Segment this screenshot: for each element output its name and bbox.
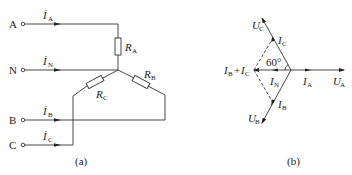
svg-text:R: R [143, 68, 151, 80]
svg-text:B: B [48, 111, 53, 119]
svg-text:A: A [132, 47, 137, 55]
label-ub: U B [248, 112, 260, 126]
phasor-ub [262, 70, 291, 123]
arrow-ic-icon [54, 143, 61, 146]
svg-text:R: R [124, 41, 132, 53]
svg-text:A: A [48, 15, 53, 23]
label-uc: U C [252, 19, 264, 33]
label-in: I N [269, 75, 279, 89]
svg-text:C: C [48, 136, 53, 144]
label-ib: I B [277, 98, 287, 112]
arrow-ib-icon [54, 118, 61, 121]
current-label-ic: İ C [42, 130, 53, 144]
label-b: B [9, 114, 16, 126]
svg-text:C: C [259, 25, 264, 33]
svg-text:B: B [282, 104, 287, 112]
current-label-ib: İ B [42, 105, 53, 119]
svg-text:B: B [228, 70, 233, 78]
resistor-label-rc: R C [95, 88, 108, 102]
circuit-a [21, 22, 165, 147]
marker-ia-icon [305, 69, 311, 72]
phasor-diagram-b [254, 18, 344, 123]
svg-text:C: C [282, 40, 287, 48]
arrow-in-icon [54, 68, 61, 71]
svg-text:C: C [103, 94, 108, 102]
label-ia: I A [302, 75, 312, 89]
svg-text:A: A [340, 81, 345, 89]
svg-text:N: N [274, 81, 279, 89]
caption-a: (a) [75, 155, 88, 168]
svg-text:R: R [95, 88, 103, 100]
terminal-c [21, 143, 25, 147]
label-ic: I C [277, 34, 287, 48]
terminal-b [21, 118, 25, 122]
label-ib-plus-ic: I B + I C [223, 64, 250, 78]
svg-text:C: C [245, 70, 250, 78]
current-label-in: İ N [42, 55, 53, 69]
label-a: A [9, 18, 17, 30]
resistor-rc [86, 75, 104, 88]
svg-text:A: A [307, 81, 312, 89]
marker-ic-icon [271, 37, 275, 43]
angle-arc [285, 65, 288, 70]
svg-text:+: + [234, 64, 240, 76]
current-label-ia: İ A [42, 9, 53, 23]
current-arrows-a [54, 22, 61, 146]
resistor-label-rb: R B [143, 68, 156, 82]
marker-in-icon [272, 69, 278, 72]
svg-text:B: B [255, 118, 260, 126]
caption-b: (b) [287, 155, 300, 168]
resistor-ra [115, 38, 121, 55]
label-n: N [9, 64, 17, 76]
svg-text:B: B [151, 74, 156, 82]
label-ua: U A [333, 75, 345, 89]
terminal-n [21, 68, 25, 72]
terminal-a [21, 22, 25, 26]
angle-label: 60° [266, 56, 281, 68]
svg-text:N: N [48, 61, 53, 69]
arrow-ia-icon [54, 22, 61, 25]
circuit-figure: A N B C İ A İ N İ B İ C R A R B R C (a) [0, 0, 352, 175]
resistor-label-ra: R A [124, 41, 137, 55]
label-c: C [9, 139, 16, 151]
